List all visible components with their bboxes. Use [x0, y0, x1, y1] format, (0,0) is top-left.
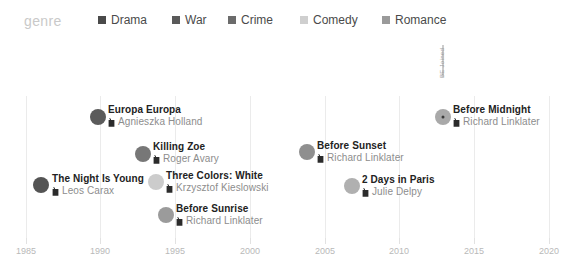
legend-item-label: Crime [241, 14, 273, 26]
axis-tick-label: 1995 [165, 246, 185, 256]
gridline [26, 96, 27, 238]
director-icon [176, 217, 183, 226]
axis-tick [474, 238, 475, 244]
axis-tick-label: 2000 [240, 246, 260, 256]
legend-item-label: War [185, 14, 207, 26]
data-point-title: Killing Zoe [153, 141, 219, 153]
data-point[interactable] [90, 109, 106, 125]
scatter-plot-area: BE Joined 198519901995200020052010201520… [0, 40, 570, 240]
data-point-label[interactable]: 2 Days in ParisJulie Delpy [362, 174, 435, 198]
data-point-director: Richard Linklater [463, 116, 540, 128]
data-point-label[interactable]: Before SunriseRichard Linklater [176, 203, 263, 227]
legend-item-label: Romance [395, 14, 446, 26]
legend-swatch-icon [228, 16, 236, 24]
data-point-director-row: Roger Avary [153, 153, 219, 165]
axis-tick-label: 1990 [90, 246, 110, 256]
axis-tick-label: 2020 [539, 246, 559, 256]
data-point-director: Richard Linklater [186, 215, 263, 227]
data-point-label[interactable]: The Night Is YoungLeos Carax [52, 173, 144, 197]
data-point[interactable] [344, 178, 360, 194]
director-icon [153, 155, 160, 164]
legend-title: genre [24, 13, 62, 29]
data-point[interactable] [148, 174, 164, 190]
axis-tick-label: 2015 [464, 246, 484, 256]
director-icon [166, 184, 173, 193]
data-point-title: Before Sunrise [176, 203, 263, 215]
data-point-title: Before Sunset [317, 140, 404, 152]
data-point-director: Richard Linklater [327, 152, 404, 164]
axis-tick [399, 238, 400, 244]
legend-swatch-icon [172, 16, 180, 24]
legend: genre DramaWarCrimeComedyRomance [0, 10, 570, 34]
director-icon [317, 154, 324, 163]
legend-item-label: Drama [111, 14, 147, 26]
data-point-title: 2 Days in Paris [362, 174, 435, 186]
legend-swatch-icon [98, 16, 106, 24]
data-point-label[interactable]: Three Colors: WhiteKrzysztof Kieslowski [166, 170, 269, 194]
data-point[interactable] [435, 109, 451, 125]
data-point-title: Europa Europa [108, 104, 203, 116]
gridline [399, 96, 400, 238]
director-icon [362, 188, 369, 197]
data-point-director-row: Julie Delpy [362, 186, 435, 198]
axis-tick-label: 2010 [389, 246, 409, 256]
gridline [549, 96, 550, 238]
data-point-label[interactable]: Before SunsetRichard Linklater [317, 140, 404, 164]
data-point-director: Roger Avary [163, 153, 219, 165]
gridline [325, 96, 326, 238]
data-point-director: Leos Carax [62, 185, 114, 197]
axis-tick-label: 1985 [16, 246, 36, 256]
data-point-director: Julie Delpy [372, 186, 422, 198]
director-icon [453, 118, 460, 127]
data-point-director-row: Richard Linklater [317, 152, 404, 164]
data-point[interactable] [135, 146, 151, 162]
axis-tick [549, 238, 550, 244]
data-point[interactable] [33, 177, 49, 193]
data-point-director-row: Agnieszka Holland [108, 116, 203, 128]
data-point-title: Three Colors: White [166, 170, 269, 182]
data-point-director: Agnieszka Holland [118, 116, 203, 128]
legend-item-label: Comedy [313, 14, 358, 26]
legend-item-crime[interactable]: Crime [228, 14, 273, 26]
legend-swatch-icon [300, 16, 308, 24]
axis-tick [175, 238, 176, 244]
axis-tick [325, 238, 326, 244]
legend-item-war[interactable]: War [172, 14, 207, 26]
data-point-title: The Night Is Young [52, 173, 144, 185]
director-icon [108, 118, 115, 127]
data-point-director-row: Richard Linklater [453, 116, 540, 128]
legend-item-romance[interactable]: Romance [382, 14, 446, 26]
director-icon [52, 187, 59, 196]
data-point-label[interactable]: Killing ZoeRoger Avary [153, 141, 219, 165]
axis-tick [26, 238, 27, 244]
legend-swatch-icon [382, 16, 390, 24]
data-point-director-row: Richard Linklater [176, 215, 263, 227]
axis-tick-label: 2005 [315, 246, 335, 256]
data-point-director: Krzysztof Kieslowski [176, 182, 269, 194]
axis-tick [250, 238, 251, 244]
data-point-label[interactable]: Europa EuropaAgnieszka Holland [108, 104, 203, 128]
data-point-director-row: Krzysztof Kieslowski [166, 182, 269, 194]
point-stem [443, 45, 444, 77]
data-point-label[interactable]: Before MidnightRichard Linklater [453, 104, 540, 128]
legend-item-comedy[interactable]: Comedy [300, 14, 358, 26]
data-point-title: Before Midnight [453, 104, 540, 116]
legend-item-drama[interactable]: Drama [98, 14, 147, 26]
axis-tick [100, 238, 101, 244]
data-point[interactable] [299, 144, 315, 160]
data-point[interactable] [158, 207, 174, 223]
data-point-director-row: Leos Carax [52, 185, 144, 197]
